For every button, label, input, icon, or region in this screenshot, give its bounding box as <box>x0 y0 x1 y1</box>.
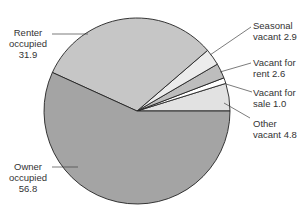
label-value: 56.8 <box>2 183 54 194</box>
label-other-vacant: Other vacant 4.8 <box>253 118 297 140</box>
label-vacant-for-rent: Vacant for rent 2.6 <box>253 57 296 79</box>
label-value: vacant 2.9 <box>253 31 297 42</box>
label-line: occupied <box>2 172 54 183</box>
label-renter-occupied: Renter occupied 31.9 <box>2 27 54 60</box>
label-owner-occupied: Owner occupied 56.8 <box>2 161 54 194</box>
label-value: vacant 4.8 <box>253 129 297 140</box>
label-line: Vacant for <box>253 57 296 68</box>
label-line: Vacant for <box>253 87 296 98</box>
label-line: occupied <box>2 38 54 49</box>
label-value: 31.9 <box>2 49 54 60</box>
label-seasonal-vacant: Seasonal vacant 2.9 <box>253 20 297 42</box>
label-line: Renter <box>2 27 54 38</box>
label-line: Other <box>253 118 297 129</box>
leader-rent <box>220 63 251 72</box>
leader-seasonal <box>210 27 251 55</box>
leader-sale <box>226 84 252 92</box>
label-value: rent 2.6 <box>253 68 296 79</box>
label-vacant-for-sale: Vacant for sale 1.0 <box>253 87 296 109</box>
label-line: Owner <box>2 161 54 172</box>
label-line: Seasonal <box>253 20 297 31</box>
pie-slices <box>44 18 230 204</box>
label-value: sale 1.0 <box>253 98 296 109</box>
